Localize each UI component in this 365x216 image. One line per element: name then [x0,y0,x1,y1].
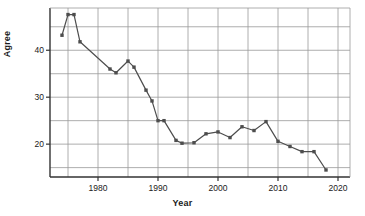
line-chart-plot: 20304019801990200020102020 [0,0,365,216]
svg-text:40: 40 [35,45,45,55]
axis-ticks [46,50,338,181]
chart-container: 20304019801990200020102020 Agree Year [0,0,365,216]
svg-text:30: 30 [35,92,45,102]
x-axis-title: Year [0,198,365,208]
svg-text:2000: 2000 [209,183,228,193]
data-series [60,13,327,172]
svg-text:20: 20 [35,139,45,149]
svg-text:2010: 2010 [269,183,288,193]
tick-labels: 20304019801990200020102020 [35,45,348,193]
svg-text:1990: 1990 [149,183,168,193]
y-axis-title: Agree [2,14,12,74]
svg-text:2020: 2020 [329,183,348,193]
svg-text:1980: 1980 [89,183,108,193]
